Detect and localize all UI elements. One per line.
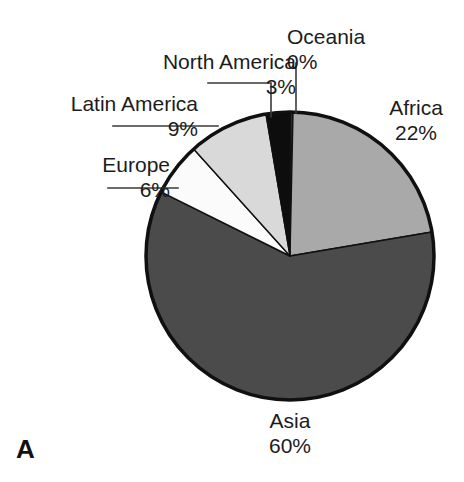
slice-label-africa: Africa 22%: [372, 95, 460, 145]
slice-label-latin-america: Latin America 9%: [18, 91, 198, 141]
slice-label-north-america-name: North America: [126, 49, 296, 74]
slice-label-oceania: Oceania 0%: [287, 24, 407, 74]
slice-label-africa-name: Africa: [372, 95, 460, 120]
slice-label-latin-america-percent: 9%: [18, 116, 198, 141]
slice-label-europe: Europe 6%: [30, 152, 170, 202]
slice-label-asia: Asia 60%: [232, 408, 348, 458]
slice-label-europe-name: Europe: [30, 152, 170, 177]
slice-label-latin-america-name: Latin America: [18, 91, 198, 116]
panel-letter: A: [16, 434, 35, 465]
slice-label-oceania-percent: 0%: [287, 49, 407, 74]
slice-label-asia-percent: 60%: [232, 433, 348, 458]
slice-label-africa-percent: 22%: [372, 120, 460, 145]
slice-label-asia-name: Asia: [232, 408, 348, 433]
slice-label-europe-percent: 6%: [30, 177, 170, 202]
pie-chart-figure: Oceania 0% North America 3% Latin Americ…: [0, 0, 464, 482]
slice-label-oceania-name: Oceania: [287, 24, 407, 49]
